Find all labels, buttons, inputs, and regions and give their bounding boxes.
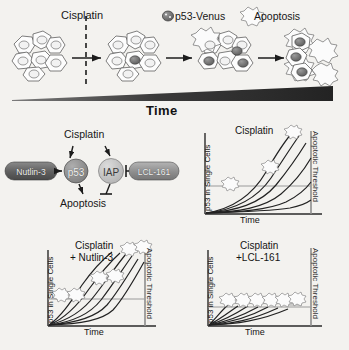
chart-cisplatin-right-label: Apoptotic Threshold (311, 131, 320, 202)
figure-panel: Cisplatin p53-Venus Apoptosis Time Nutli… (0, 0, 349, 350)
node-nutlin3-label: Nutlin-3 (9, 167, 53, 177)
chart-lcl-ylabel: p53 in Single Cells (206, 257, 215, 323)
legend-apoptosis-label: Apoptosis (254, 10, 300, 22)
chart-nutlin-title2: + Nutlin-3 (70, 252, 113, 263)
node-p53-label: p53 (62, 167, 90, 178)
chart-lcl-right-label: Apoptotic Threshold (311, 248, 320, 319)
chart-nutlin-title: Cisplatin (75, 240, 113, 251)
chart-cisplatin-ylabel: p53 in Single Cells (203, 145, 212, 211)
network-output-label: Apoptosis (60, 197, 106, 209)
chart-nutlin-ylabel: p53 in Single Cells (46, 257, 55, 323)
chart-lcl-title2: +LCL-161 (236, 252, 280, 263)
chart-lcl-xlabel: Time (245, 327, 265, 337)
legend-p53-venus-icon (162, 11, 173, 21)
chart-lcl-title: Cisplatin (240, 240, 278, 251)
node-lcl161-label: LCL-161 (131, 167, 177, 177)
chart-nutlin-right-label: Apoptotic Threshold (145, 248, 154, 319)
node-iap-label: IAP (97, 167, 125, 178)
time-axis-label: Time (146, 103, 178, 118)
top-panel-treatment-label: Cisplatin (61, 9, 103, 21)
chart-cisplatin-title: Cisplatin (235, 125, 273, 136)
chart-nutlin-xlabel: Time (84, 327, 104, 337)
legend-p53-venus-label: p53-Venus (175, 10, 225, 22)
p53-positive-nucleus (130, 56, 140, 64)
network-input-label: Cisplatin (64, 128, 104, 140)
chart-cisplatin-xlabel: Time (240, 215, 260, 225)
